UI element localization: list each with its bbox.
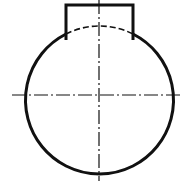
technical-drawing	[0, 0, 188, 190]
